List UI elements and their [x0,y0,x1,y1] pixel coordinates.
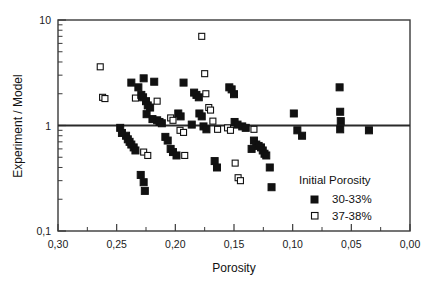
scatter-chart: 0,1110 0,300,250,200,150,100,050,00 Expe… [0,0,436,284]
data-point-filled [188,121,195,128]
data-point-open [181,129,187,135]
data-point-filled [336,84,343,91]
data-point-open [203,91,209,97]
data-point-filled [337,108,344,115]
data-point-open [251,126,257,132]
data-point-filled [140,75,147,82]
data-point-open [227,127,233,133]
data-point-filled [268,184,275,191]
x-tick-label: 0,20 [165,238,186,250]
data-point-filled [128,79,135,86]
data-point-open [237,178,243,184]
legend-label-0: 30-33% [332,193,372,205]
data-point-filled [365,127,372,134]
y-tick-label: 0,1 [36,225,51,237]
legend-marker-filled-square [311,196,318,203]
data-point-open [208,107,214,113]
data-point-open [215,126,221,132]
data-point-filled [195,94,202,101]
x-tick-label: 0,05 [341,238,362,250]
data-point-filled [158,120,165,127]
data-point-open [182,152,188,158]
data-point-filled [337,118,344,125]
x-tick-label: 0,25 [106,238,127,250]
data-point-filled [266,164,273,171]
data-point-filled [177,113,184,120]
data-point-open [232,160,238,166]
data-point-filled [135,84,142,91]
data-point-open [202,71,208,77]
data-point-filled [242,124,249,131]
y-tick-label: 10 [39,14,51,26]
x-tick-label: 0,00 [400,238,421,250]
data-point-open [170,117,176,123]
data-point-open [199,33,205,39]
data-point-filled [137,171,144,178]
x-axis-title: Porosity [212,261,255,275]
legend-label-1: 37-38% [332,210,372,222]
data-point-filled [203,126,210,133]
data-point-filled [173,152,180,159]
data-point-filled [198,113,205,120]
data-point-filled [231,91,238,98]
data-point-open [154,98,160,104]
x-tick-label: 0,15 [224,238,245,250]
data-point-filled [290,110,297,117]
data-point-open [210,118,216,124]
y-tick-label: 1 [45,120,51,132]
legend-title: Initial Porosity [299,174,371,186]
data-point-filled [151,78,158,85]
data-point-open [97,64,103,70]
data-point-filled [337,126,344,133]
legend-marker-open-square [312,213,319,220]
data-point-filled [263,152,270,159]
data-point-filled [141,187,148,194]
y-axis-title: Experiment / Model [11,74,25,177]
data-point-filled [132,147,139,154]
data-point-open [145,152,151,158]
data-point-filled [213,164,220,171]
data-point-filled [180,79,187,86]
data-point-filled [164,137,171,144]
data-point-filled [299,132,306,139]
x-tick-label: 0,10 [282,238,303,250]
data-point-filled [118,129,125,136]
data-point-open [102,96,108,102]
data-point-filled [248,145,255,152]
data-point-filled [140,179,147,186]
x-tick-label: 0,30 [48,238,69,250]
data-point-filled [147,104,154,111]
